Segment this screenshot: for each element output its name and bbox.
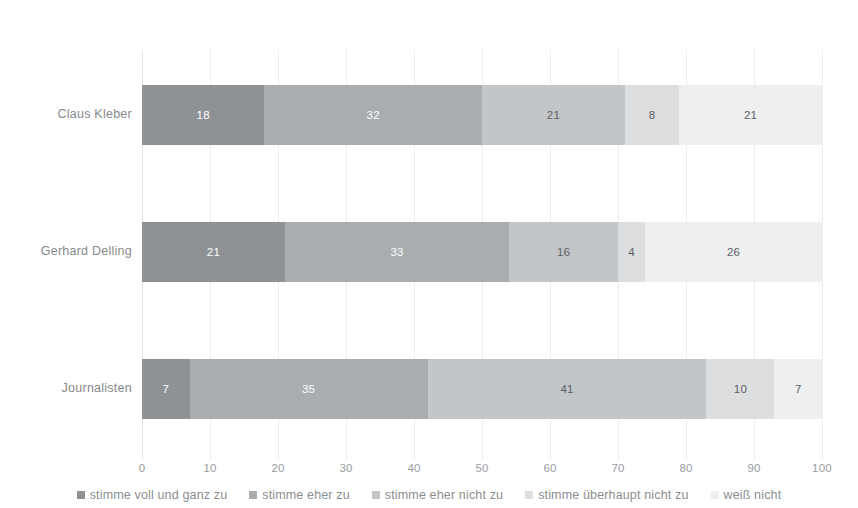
bar-segment-value: 33 xyxy=(390,246,403,258)
bar-segment-value: 21 xyxy=(744,109,757,121)
bar-segment-value: 41 xyxy=(560,383,573,395)
legend-item[interactable]: stimme überhaupt nicht zu xyxy=(525,488,688,502)
bar-segment: 35 xyxy=(190,359,428,419)
bar-segment-value: 10 xyxy=(734,383,747,395)
bar-segment: 10 xyxy=(706,359,774,419)
x-axis: 0102030405060708090100 xyxy=(142,458,822,480)
bar-segment: 41 xyxy=(428,359,707,419)
legend-label: weiß nicht xyxy=(724,488,782,502)
bar-segment: 7 xyxy=(142,359,190,419)
legend-swatch-icon xyxy=(711,491,719,499)
category-axis: Claus KleberGerhard DellingJournalisten xyxy=(0,50,132,460)
legend-swatch-icon xyxy=(249,491,257,499)
bar-segment: 16 xyxy=(509,222,618,282)
legend-label: stimme eher zu xyxy=(262,488,350,502)
legend-item[interactable]: stimme voll und ganz zu xyxy=(77,488,228,502)
gridline xyxy=(822,50,823,460)
x-axis-tick-label: 100 xyxy=(812,462,832,474)
bar-segment-value: 16 xyxy=(557,246,570,258)
legend-swatch-icon xyxy=(77,491,85,499)
bar-segment: 33 xyxy=(285,222,509,282)
category-label: Claus Kleber xyxy=(0,107,132,121)
legend-swatch-icon xyxy=(372,491,380,499)
bar-segment-value: 26 xyxy=(727,246,740,258)
bar-row: 213316426 xyxy=(142,222,822,282)
bar-segment-value: 18 xyxy=(197,109,210,121)
bar-segment-value: 35 xyxy=(302,383,315,395)
x-axis-tick-label: 10 xyxy=(203,462,216,474)
bar-row: 183221821 xyxy=(142,85,822,145)
legend-label: stimme überhaupt nicht zu xyxy=(538,488,688,502)
x-axis-tick-label: 40 xyxy=(407,462,420,474)
chart-legend: stimme voll und ganz zustimme eher zusti… xyxy=(0,484,858,506)
bar-segment-value: 21 xyxy=(547,109,560,121)
bar-segment-value: 8 xyxy=(649,109,656,121)
bar-segment-value: 7 xyxy=(795,383,802,395)
bar-segment-value: 7 xyxy=(162,383,169,395)
plot-area: 18322182121331642673541107 xyxy=(142,50,822,460)
x-axis-tick-label: 20 xyxy=(271,462,284,474)
bar-segment-value: 32 xyxy=(367,109,380,121)
legend-item[interactable]: weiß nicht xyxy=(711,488,782,502)
legend-label: stimme voll und ganz zu xyxy=(90,488,228,502)
x-axis-tick-label: 70 xyxy=(611,462,624,474)
bar-segment: 21 xyxy=(142,222,285,282)
bar-segment: 8 xyxy=(625,85,679,145)
bar-segment: 18 xyxy=(142,85,264,145)
bar-segment: 21 xyxy=(679,85,822,145)
x-axis-tick-label: 80 xyxy=(679,462,692,474)
legend-item[interactable]: stimme eher zu xyxy=(249,488,350,502)
x-axis-tick-label: 0 xyxy=(139,462,146,474)
x-axis-tick-label: 60 xyxy=(543,462,556,474)
bar-segment: 32 xyxy=(264,85,482,145)
bar-segment: 26 xyxy=(645,222,822,282)
bar-segment-value: 21 xyxy=(207,246,220,258)
bar-row: 73541107 xyxy=(142,359,822,419)
category-label: Gerhard Delling xyxy=(0,244,132,258)
bar-segment-value: 4 xyxy=(628,246,635,258)
category-label: Journalisten xyxy=(0,381,132,395)
legend-swatch-icon xyxy=(525,491,533,499)
x-axis-tick-label: 90 xyxy=(747,462,760,474)
legend-item[interactable]: stimme eher nicht zu xyxy=(372,488,503,502)
legend-label: stimme eher nicht zu xyxy=(385,488,503,502)
bar-segment: 7 xyxy=(774,359,822,419)
bar-segment: 4 xyxy=(618,222,645,282)
x-axis-tick-label: 50 xyxy=(475,462,488,474)
x-axis-tick-label: 30 xyxy=(339,462,352,474)
stacked-bar-chart: Claus KleberGerhard DellingJournalisten … xyxy=(0,0,858,508)
bar-segment: 21 xyxy=(482,85,625,145)
